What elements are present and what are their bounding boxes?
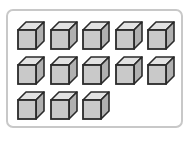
cube-icon bbox=[115, 20, 143, 50]
cube-icon bbox=[17, 20, 45, 50]
cube-icon bbox=[147, 20, 175, 50]
cube-icon bbox=[82, 90, 110, 120]
cube-icon bbox=[17, 90, 45, 120]
cube-icon bbox=[82, 55, 110, 85]
cube-icon bbox=[17, 55, 45, 85]
cube-icon bbox=[115, 55, 143, 85]
cube-icon bbox=[50, 20, 78, 50]
cube-icon bbox=[82, 20, 110, 50]
cube-icon bbox=[50, 55, 78, 85]
cube-icon bbox=[50, 90, 78, 120]
cube-icon bbox=[147, 55, 175, 85]
